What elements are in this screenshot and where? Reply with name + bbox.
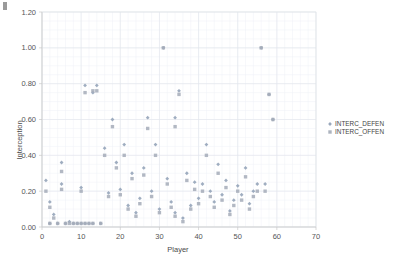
major-gridlines [42, 12, 316, 227]
data-point [150, 189, 154, 193]
x-tick-label: 20 [116, 232, 124, 241]
data-point [126, 207, 129, 210]
data-point [252, 195, 255, 198]
data-point [169, 200, 173, 204]
data-point [126, 204, 130, 208]
data-point [130, 171, 134, 175]
data-point [260, 46, 263, 49]
legend-marker-1 [328, 122, 332, 126]
x-axis-title: Player [167, 245, 189, 254]
data-point [193, 180, 197, 184]
data-point [52, 216, 55, 219]
data-point [91, 222, 94, 225]
data-point [60, 188, 63, 191]
data-point [158, 207, 162, 211]
data-point [177, 93, 180, 96]
data-point [107, 195, 110, 198]
data-point [209, 195, 212, 198]
legend-label-2: INTERC_OFFEN [335, 128, 384, 136]
data-point [197, 202, 200, 205]
x-tick-label: 70 [312, 232, 320, 241]
y-tick-label: 1.20 [21, 8, 36, 17]
data-point [87, 222, 90, 225]
data-point [189, 204, 193, 208]
data-point [83, 222, 86, 225]
data-point [118, 187, 122, 191]
data-point [232, 198, 236, 202]
data-point [115, 166, 118, 169]
data-point [193, 188, 196, 191]
data-point [173, 116, 177, 120]
data-point [95, 89, 98, 92]
data-point [44, 189, 47, 192]
data-point [79, 186, 83, 190]
x-axis-tick-labels: 010203040506070 [40, 227, 320, 241]
legend-marker-2 [328, 130, 331, 133]
data-point [134, 215, 137, 218]
data-point [114, 161, 118, 165]
x-tick-label: 40 [194, 232, 202, 241]
data-point [166, 182, 169, 185]
x-tick-label: 30 [155, 232, 163, 241]
data-point [111, 125, 114, 128]
data-point [52, 213, 56, 217]
data-point [232, 204, 235, 207]
data-point [60, 182, 64, 186]
data-point [44, 179, 48, 183]
data-point [76, 222, 79, 225]
data-point [201, 189, 204, 192]
data-point [154, 143, 158, 147]
data-point [263, 182, 267, 186]
legend: INTERC_DEFENINTERC_OFFEN [328, 120, 384, 136]
data-point [169, 206, 172, 209]
data-point [205, 154, 208, 157]
data-point [83, 84, 87, 88]
data-point [146, 127, 149, 130]
data-point [146, 116, 150, 120]
data-point [263, 189, 266, 192]
data-point [173, 211, 177, 215]
data-point [60, 161, 64, 165]
data-point [56, 222, 59, 225]
data-point [154, 154, 157, 157]
data-point [220, 198, 223, 201]
data-point [216, 172, 219, 175]
x-tick-label: 60 [273, 232, 281, 241]
y-tick-label: 0.80 [21, 79, 36, 88]
data-point [236, 189, 239, 192]
data-point [103, 154, 106, 157]
data-point [212, 200, 216, 204]
data-point [134, 211, 138, 215]
data-point [91, 89, 94, 92]
data-point [189, 207, 192, 210]
data-point [64, 222, 67, 225]
scatter-chart: 0.000.200.400.600.801.001.20 01020304050… [0, 0, 396, 258]
data-point [72, 222, 75, 225]
data-point [48, 200, 52, 204]
data-point [111, 118, 115, 122]
data-point [95, 84, 99, 88]
data-point [68, 222, 71, 225]
data-point [138, 196, 142, 200]
data-point [173, 125, 176, 128]
data-point [244, 175, 247, 178]
data-point [138, 202, 141, 205]
data-point [60, 170, 63, 173]
data-point [79, 189, 82, 192]
data-point [224, 186, 227, 189]
data-point [150, 195, 153, 198]
data-point [99, 222, 102, 225]
x-tick-label: 50 [234, 232, 242, 241]
data-point [48, 222, 51, 225]
data-point [142, 173, 145, 176]
x-tick-label: 10 [77, 232, 85, 241]
data-point [236, 184, 240, 188]
data-point [205, 143, 209, 147]
data-point [185, 171, 189, 175]
data-point [271, 118, 274, 121]
data-point [228, 213, 231, 216]
data-point [201, 182, 205, 186]
data-point [119, 193, 122, 196]
data-point [256, 189, 259, 192]
y-tick-label: 0.00 [21, 223, 36, 232]
